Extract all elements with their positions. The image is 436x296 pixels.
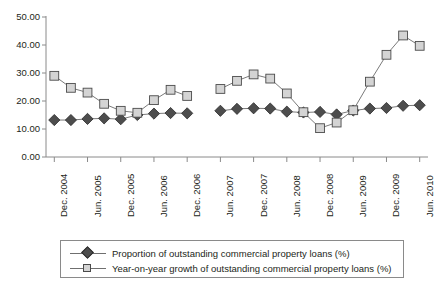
- chart-figure: 0.0010.0020.0030.0040.0050.00 Dec. 2004J…: [0, 0, 436, 296]
- x-axis-tick-label: Jun. 2005: [92, 175, 103, 217]
- data-point-square: [399, 31, 408, 40]
- x-axis-tick-label: Jun. 2007: [224, 175, 235, 217]
- legend-item-growth: Year-on-year growth of outstanding comme…: [70, 261, 392, 275]
- data-point-square: [100, 99, 109, 108]
- data-point-diamond: [148, 108, 159, 119]
- y-axis-tick-label: 0.00: [0, 151, 40, 162]
- y-axis-tick-label: 10.00: [0, 123, 40, 134]
- y-axis-tick-label: 20.00: [0, 95, 40, 106]
- data-point-diamond: [281, 106, 292, 117]
- y-axis-tick-label: 50.00: [0, 11, 40, 22]
- data-point-square: [67, 83, 76, 92]
- data-point-square: [183, 92, 192, 101]
- y-axis-tick-label: 30.00: [0, 67, 40, 78]
- data-point-square: [282, 89, 291, 98]
- data-point-square: [133, 108, 142, 117]
- data-point-diamond: [364, 103, 375, 114]
- legend-label-proportion: Proportion of outstanding commercial pro…: [112, 248, 350, 259]
- data-point-square: [316, 124, 325, 133]
- data-point-diamond: [215, 105, 226, 116]
- x-axis-tick-label: Jun. 2008: [291, 175, 302, 217]
- data-point-square: [415, 41, 424, 50]
- x-axis-tick-label: Dec. 2004: [58, 174, 69, 217]
- diamond-marker-icon: [70, 247, 106, 259]
- y-axis-tick-label: 40.00: [0, 39, 40, 50]
- data-point-square: [332, 118, 341, 127]
- data-point-square: [349, 106, 358, 115]
- data-point-diamond: [414, 100, 425, 111]
- legend-label-growth: Year-on-year growth of outstanding comme…: [112, 263, 392, 274]
- data-point-diamond: [314, 106, 325, 117]
- data-point-diamond: [49, 114, 60, 125]
- data-point-diamond: [381, 102, 392, 113]
- data-point-diamond: [99, 113, 110, 124]
- x-axis-tick-label: Dec. 2009: [390, 174, 401, 217]
- x-axis-tick-label: Jun. 2006: [158, 175, 169, 217]
- square-marker-icon: [70, 262, 106, 274]
- data-point-square: [216, 85, 225, 94]
- x-axis-tick-label: Dec. 2005: [125, 174, 136, 217]
- data-point-square: [116, 106, 125, 115]
- data-point-square: [233, 76, 242, 85]
- data-point-diamond: [65, 114, 76, 125]
- legend-item-proportion: Proportion of outstanding commercial pro…: [70, 246, 350, 260]
- data-point-square: [299, 108, 308, 117]
- data-point-square: [166, 85, 175, 94]
- data-point-diamond: [397, 100, 408, 111]
- data-point-square: [266, 74, 275, 83]
- data-point-square: [83, 88, 92, 97]
- data-point-square: [365, 77, 374, 86]
- data-point-square: [249, 70, 258, 79]
- data-point-diamond: [82, 113, 93, 124]
- x-axis-tick-label: Dec. 2008: [324, 174, 335, 217]
- data-point-diamond: [182, 108, 193, 119]
- data-point-diamond: [265, 103, 276, 114]
- data-point-diamond: [231, 103, 242, 114]
- chart-legend: Proportion of outstanding commercial pro…: [60, 240, 404, 278]
- data-point-square: [150, 96, 159, 105]
- x-axis-tick-label: Jun. 2010: [424, 175, 435, 217]
- data-point-diamond: [248, 103, 259, 114]
- data-point-square: [382, 50, 391, 59]
- data-point-diamond: [165, 107, 176, 118]
- x-axis-tick-label: Dec. 2007: [258, 174, 269, 217]
- x-axis-tick-label: Jun. 2009: [357, 175, 368, 217]
- x-axis-tick-label: Dec. 2006: [191, 174, 202, 217]
- data-point-square: [50, 71, 59, 80]
